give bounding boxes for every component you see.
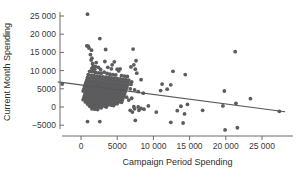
data-point [171,69,175,73]
data-point [223,128,227,132]
y-tick-label: 10 000 [30,66,56,76]
scatter-plot-figure: 0500010 00015 00020 00025 000 −500005000… [0,0,298,183]
y-tick-label: 25 000 [30,11,56,21]
x-tick-label: 10 000 [140,141,166,151]
data-point [179,104,183,108]
data-point [106,65,110,69]
data-point [165,87,169,91]
data-point [235,126,239,130]
data-point [222,89,226,93]
data-point [135,71,139,75]
data-point [131,47,135,51]
data-point [89,53,93,57]
data-point [94,61,98,65]
data-point [86,120,90,124]
y-tick-label: 15 000 [30,47,56,57]
data-point [115,102,119,106]
data-point [186,103,190,107]
data-point [98,37,102,41]
data-point [110,63,114,67]
data-point [169,120,173,124]
data-point [134,59,138,63]
data-point [154,110,158,114]
data-point [201,108,205,112]
data-point [125,75,129,79]
data-point [221,104,225,108]
data-point [183,112,187,116]
data-point [137,108,141,112]
data-point [110,67,114,71]
data-point [120,100,124,104]
data-point [160,82,164,86]
x-tick-label: 25 000 [249,141,275,151]
x-axis-title: Campaign Period Spending [122,157,232,167]
data-points-layer [60,12,281,132]
x-tick-label: 20 000 [213,141,239,151]
data-point [181,121,185,125]
data-point [159,89,163,93]
data-point [90,48,94,52]
x-axis-ticks: 0500010 00015 00020 00025 000 [79,136,276,151]
data-point [233,50,237,54]
data-point [133,107,137,111]
chart-canvas: 0500010 00015 00020 00025 000 −500005000… [0,0,298,183]
y-tick-label: 20 000 [30,29,56,39]
data-point [99,106,103,110]
x-tick-label: 15 000 [177,141,203,151]
data-point [139,78,143,82]
data-point [96,108,100,112]
data-point [142,107,146,111]
data-point [104,105,108,109]
data-point [133,67,137,71]
y-axis-ticks: −50000500010 00015 00020 00025 000 [30,11,64,130]
data-point [133,119,137,123]
data-point [128,87,132,91]
data-point [112,104,116,108]
data-point [99,68,103,72]
data-point [89,58,93,62]
data-point [127,98,131,102]
data-point [132,63,136,67]
data-point [98,120,102,124]
data-point [169,83,173,87]
x-tick-label: 0 [79,141,84,151]
data-point [117,69,121,73]
data-point [249,97,253,101]
y-tick-label: 0 [51,102,56,112]
data-point [183,73,187,77]
data-point [128,108,132,112]
y-tick-label: 5000 [37,84,56,94]
data-point [86,12,90,16]
data-point [175,109,179,113]
x-tick-label: 5000 [108,141,127,151]
data-point [104,48,108,52]
data-point [146,104,150,108]
data-point [103,60,107,64]
y-axis-title: Current Month Spending [2,23,12,121]
data-point [114,73,118,77]
data-point [129,83,133,87]
y-tick-label: −5000 [32,120,56,130]
